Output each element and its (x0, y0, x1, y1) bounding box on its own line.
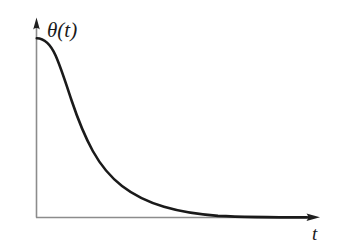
x-axis-label: t (312, 224, 317, 243)
x-axis-arrow-icon (307, 214, 321, 221)
figure-container: θ(t) t (0, 0, 358, 249)
y-axis-arrow-icon (33, 18, 40, 30)
theta-decay-curve (37, 38, 307, 217)
y-axis-label: θ(t) (47, 20, 77, 41)
